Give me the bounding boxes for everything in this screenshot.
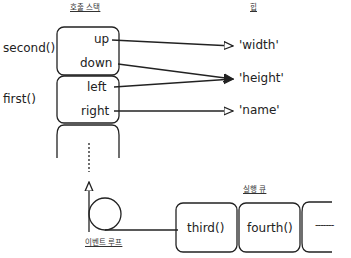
- heap-item-width: 'width': [239, 38, 279, 52]
- ref-down-height: [118, 64, 233, 79]
- frame-name-second: second(): [3, 41, 55, 55]
- queue-more: -------: [315, 219, 333, 230]
- ref-up-width: [112, 40, 233, 46]
- event-loop-circle: [89, 198, 121, 230]
- queue-label-third: third(): [187, 221, 224, 235]
- run-queue-title: 실행 큐: [243, 183, 266, 194]
- call-stack-title: 호출 스택: [70, 1, 100, 12]
- heap-title: 힙: [250, 1, 257, 12]
- var-down: down: [80, 56, 112, 70]
- var-left: left: [87, 80, 106, 94]
- heap-item-name: 'name': [239, 103, 280, 117]
- frame-name-first: first(): [3, 92, 36, 106]
- stack-frame-empty: [57, 125, 119, 158]
- ref-left-height: [114, 79, 233, 87]
- var-up: up: [94, 32, 109, 46]
- var-right: right: [81, 104, 109, 118]
- event-loop-title: 이벤트 루프: [85, 236, 122, 247]
- heap-item-height: 'height': [239, 71, 284, 85]
- queue-label-fourth: fourth(): [247, 221, 293, 235]
- diagram-canvas: [0, 0, 351, 258]
